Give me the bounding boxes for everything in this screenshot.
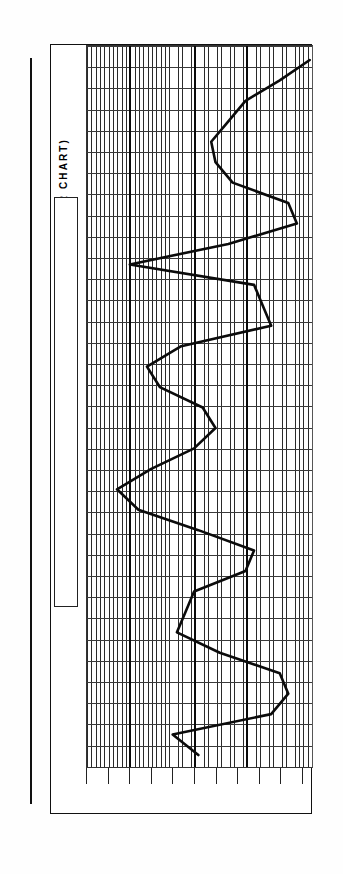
chart-frame: AVERAGES (X BAR CHART) — X = Average X =… — [50, 44, 312, 814]
plot-area — [86, 45, 313, 768]
figure-page: FIGURE 11.21 Control Chart for Simple In… — [0, 0, 343, 874]
data-series-line — [87, 46, 313, 768]
control-limit-legend-box: — X = Average X = — — U C L = X + A2 R =… — [54, 197, 78, 607]
axis-tick-marks — [86, 768, 313, 784]
caption-rule — [30, 58, 32, 804]
